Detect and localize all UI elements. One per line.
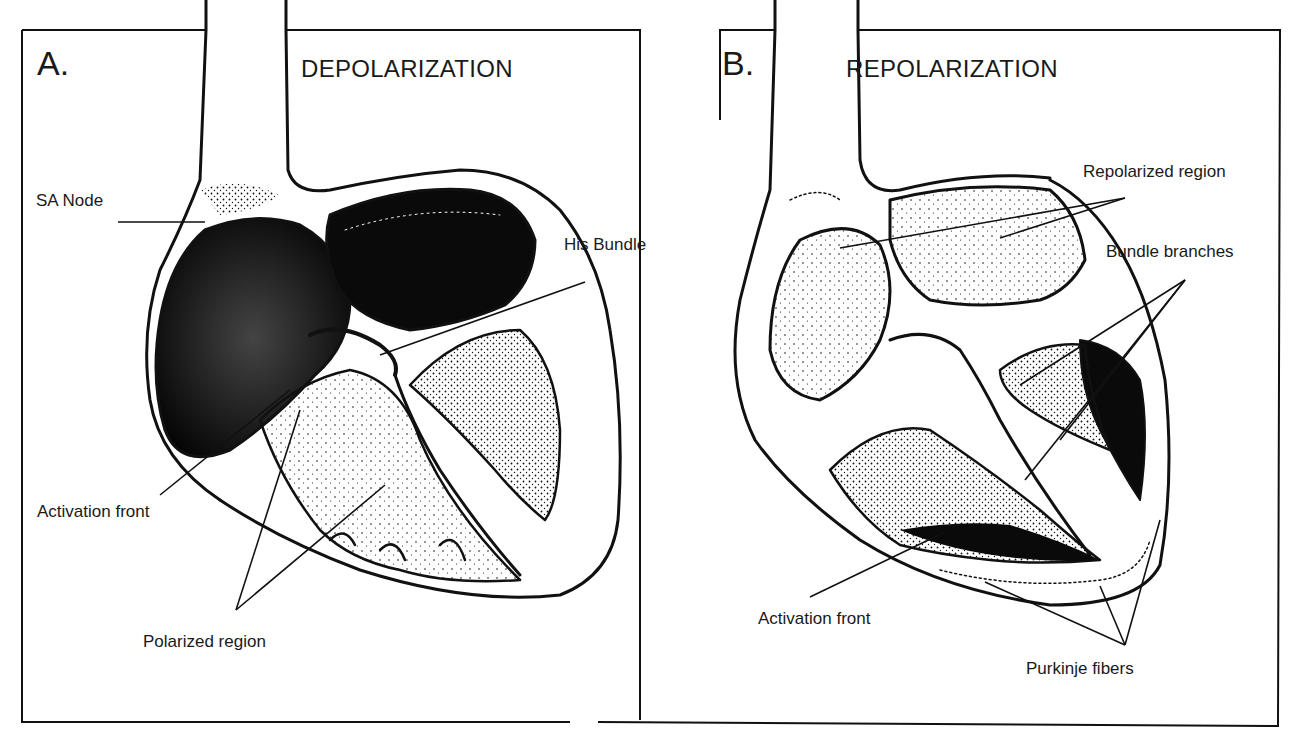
label-activation-front-b: Activation front [758, 610, 870, 627]
label-sa-node: SA Node [36, 192, 103, 209]
panel-b-title: REPOLARIZATION [846, 57, 1058, 81]
label-repolarized-region: Repolarized region [1083, 163, 1226, 180]
heart-diagram-artwork [0, 0, 1296, 739]
heart-conduction-figure: A. DEPOLARIZATION SA Node His Bundle Act… [0, 0, 1296, 739]
label-purkinje-fibers: Purkinje fibers [1026, 660, 1134, 677]
panel-b-frame [598, 30, 1280, 726]
label-polarized-region: Polarized region [143, 633, 266, 650]
panel-a-letter: A. [37, 46, 69, 80]
panel-b-letter: B. [722, 46, 754, 80]
heart-a [147, 0, 621, 597]
heart-b [735, 0, 1169, 605]
label-activation-front-a: Activation front [37, 503, 149, 520]
label-his-bundle: His Bundle [564, 236, 646, 253]
panel-a-title: DEPOLARIZATION [301, 57, 513, 81]
label-bundle-branches: Bundle branches [1106, 243, 1234, 260]
